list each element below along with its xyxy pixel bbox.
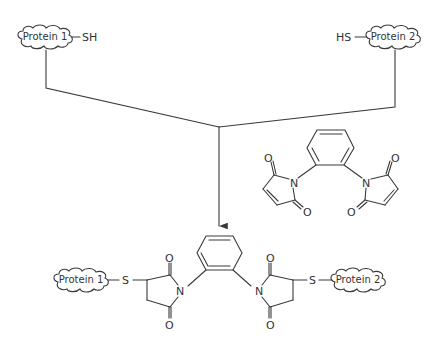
nitrogen-label: N: [255, 285, 263, 298]
oxygen-label: O: [303, 206, 312, 219]
oxygen-label: O: [266, 252, 275, 265]
protein-2-connector: [219, 50, 395, 127]
oxygen-label: O: [391, 152, 400, 165]
protein-2-label: Protein 2: [336, 274, 381, 285]
benzene-ring-icon: [307, 130, 354, 165]
thiol-group-label: SH: [82, 31, 97, 44]
protein-2-label: Protein 2: [371, 31, 416, 42]
protein-1-label: Protein 1: [23, 31, 68, 42]
oxygen-label: O: [165, 252, 174, 265]
oxygen-label: O: [165, 319, 174, 332]
reactant-protein-1: Protein 1 SH: [18, 25, 97, 49]
thiol-group-label: HS: [336, 31, 351, 44]
benzene-ring-icon: [197, 236, 242, 270]
crosslinked-product: N O O S Protein 1 N O O S: [54, 236, 385, 332]
oxygen-label: O: [264, 152, 273, 165]
reaction-lines: [46, 50, 395, 226]
reactant-protein-2: HS Protein 2: [336, 25, 420, 49]
nitrogen-label: N: [176, 285, 184, 298]
sulfur-label: S: [309, 274, 316, 287]
bismaleimide-reagent: N O O N O O: [263, 130, 400, 219]
crosslinking-diagram: Protein 1 SH HS Protein 2 N O: [0, 0, 433, 346]
nitrogen-label: N: [290, 177, 298, 190]
protein-1-connector: [46, 50, 219, 127]
protein-1-label: Protein 1: [59, 274, 104, 285]
oxygen-label: O: [347, 206, 356, 219]
sulfur-label: S: [122, 274, 129, 287]
oxygen-label: O: [266, 319, 275, 332]
